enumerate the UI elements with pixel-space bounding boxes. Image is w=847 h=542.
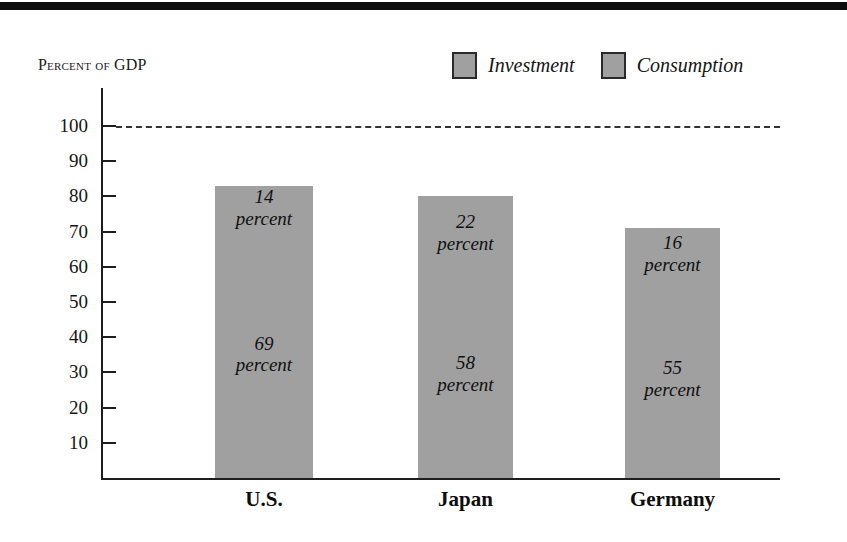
bar-segment-value: 14 [215,186,313,208]
y-axis-tick-40 [103,336,116,338]
y-axis-tick-label-30: 30 [30,361,88,383]
y-axis-title: Percent of GDP [38,56,147,74]
y-axis-title-smallcaps: Percent of [38,56,114,73]
bar-segment-unit: percent [215,208,313,230]
bar-segment-unit: percent [625,379,720,401]
bar-segment-value: 69 [215,333,313,355]
bar-segment-unit: percent [418,374,513,396]
bar-japan[interactable]: 22percent58percent [418,196,513,478]
y-axis-tick-80 [103,195,116,197]
bar-segment-unit: percent [215,354,313,376]
x-axis-label-japan: Japan [388,487,543,512]
y-axis-tick-label-60: 60 [30,256,88,278]
x-axis-label-germany: Germany [595,487,750,512]
bar-segment-value: 58 [418,352,513,374]
bar-segment-label-investment: 22percent [418,211,513,255]
bar-u-s[interactable]: 14percent69percent [215,186,313,478]
chart-figure: Percent of GDP Investment Consumption 10… [0,0,847,542]
legend-swatch-icon-investment [452,52,477,79]
legend-swatch-icon-consumption [601,52,626,79]
x-axis-label-u-s: U.S. [185,487,343,512]
bar-segment-label-consumption: 58percent [418,352,513,396]
bar-segment-unit: percent [625,254,720,276]
legend-label-consumption: Consumption [637,54,744,77]
x-axis-line [101,478,780,480]
y-axis-tick-70 [103,231,116,233]
bar-segment-value: 16 [625,232,720,254]
legend-label-investment: Investment [488,54,575,77]
y-axis-tick-label-10: 10 [30,432,88,454]
legend-item-consumption[interactable]: Consumption [601,52,744,79]
y-axis-tick-label-80: 80 [30,185,88,207]
y-axis-tick-label-50: 50 [30,291,88,313]
bar-segment-label-investment: 16percent [625,232,720,276]
y-axis-tick-30 [103,371,116,373]
bar-segment-label-consumption: 69percent [215,333,313,377]
y-axis-tick-100 [103,125,116,127]
y-axis-tick-20 [103,407,116,409]
bar-segment-unit: percent [418,233,513,255]
y-axis-tick-60 [103,266,116,268]
y-axis-tick-label-40: 40 [30,326,88,348]
y-axis-line [101,88,103,480]
bar-germany[interactable]: 16percent55percent [625,228,720,478]
chart-legend: Investment Consumption [452,52,743,79]
legend-item-investment[interactable]: Investment [452,52,575,79]
bar-segment-value: 55 [625,357,720,379]
y-axis-tick-label-90: 90 [30,150,88,172]
bar-segment-label-investment: 14percent [215,186,313,230]
top-rule-divider [0,2,847,10]
y-axis-tick-label-100: 100 [30,115,88,137]
y-axis-tick-label-20: 20 [30,397,88,419]
y-axis-tick-10 [103,442,116,444]
y-axis-title-caps: GDP [114,56,147,73]
y-axis-tick-label-70: 70 [30,221,88,243]
bar-segment-label-consumption: 55percent [625,357,720,401]
y-axis-tick-50 [103,301,116,303]
y-axis-tick-90 [103,160,116,162]
bar-segment-value: 22 [418,211,513,233]
reference-line-100 [116,126,780,128]
